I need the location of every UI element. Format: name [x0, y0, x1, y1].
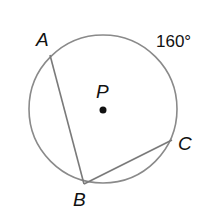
label-c: C	[178, 133, 192, 154]
label-b: B	[73, 189, 86, 209]
chord-bc	[84, 140, 172, 184]
label-p: P	[96, 81, 109, 102]
arc-measure-label: 160°	[156, 32, 191, 51]
center-point-dot	[100, 107, 107, 114]
label-a: A	[35, 29, 49, 50]
circle-diagram: A P C B 160°	[0, 0, 206, 209]
